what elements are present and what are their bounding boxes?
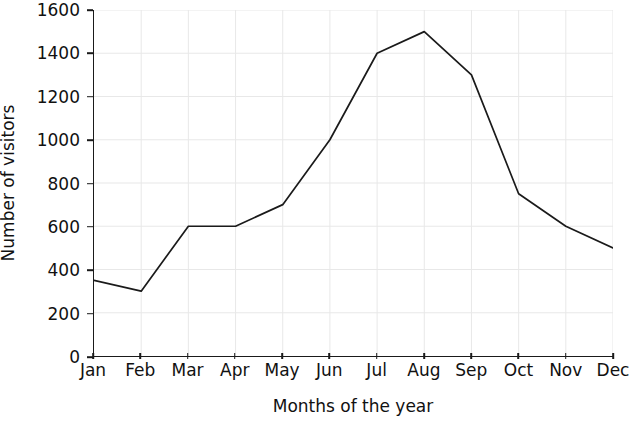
x-tick-label: Aug <box>407 360 440 380</box>
y-tick-label: 1400 <box>37 43 80 63</box>
x-tick-mark <box>92 353 94 359</box>
x-tick-mark <box>470 353 472 359</box>
x-tick-mark <box>234 353 236 359</box>
x-tick-label: Dec <box>597 360 630 380</box>
line-chart: 02004006008001000120014001600 Number of … <box>0 0 631 429</box>
x-tick-mark <box>329 353 331 359</box>
x-tick-mark <box>187 353 189 359</box>
x-axis-title: Months of the year <box>93 396 613 416</box>
x-tick-label: Nov <box>549 360 582 380</box>
x-tick-mark <box>281 353 283 359</box>
y-tick-label: 0 <box>69 347 80 367</box>
x-tick-label: Sep <box>455 360 487 380</box>
y-tick-label: 1600 <box>37 0 80 20</box>
x-tick-label: May <box>265 360 300 380</box>
x-tick-mark <box>565 353 567 359</box>
x-tick-label: Feb <box>125 360 155 380</box>
plot-area <box>93 10 613 357</box>
x-tick-label: Mar <box>171 360 203 380</box>
x-tick-mark <box>612 353 614 359</box>
y-tick-label: 800 <box>48 174 80 194</box>
x-tick-mark <box>423 353 425 359</box>
data-series-line <box>94 10 613 356</box>
x-tick-label: Jul <box>366 360 387 380</box>
x-tick-label: Jun <box>316 360 343 380</box>
y-tick-label: 600 <box>48 217 80 237</box>
y-tick-label: 1000 <box>37 130 80 150</box>
y-tick-label: 400 <box>48 260 80 280</box>
y-tick-label: 1200 <box>37 87 80 107</box>
x-tick-mark <box>518 353 520 359</box>
x-tick-label: Jan <box>80 360 106 380</box>
x-axis: JanFebMarAprMayJunJulAugSepOctNovDec <box>93 360 613 386</box>
x-tick-mark <box>376 353 378 359</box>
x-tick-mark <box>139 353 141 359</box>
x-tick-label: Apr <box>220 360 249 380</box>
x-tick-label: Oct <box>504 360 533 380</box>
y-axis-title: Number of visitors <box>0 105 18 262</box>
y-tick-label: 200 <box>48 304 80 324</box>
